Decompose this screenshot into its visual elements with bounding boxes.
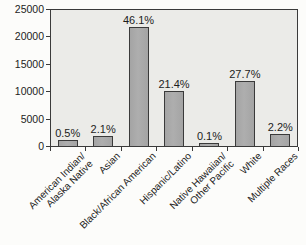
bar-value-label-white: 27.7% — [229, 68, 260, 80]
x-axis-tick — [192, 147, 193, 151]
bar-chart-figure: 05000100001500020000250000.5%American In… — [0, 0, 306, 245]
y-axis-tick — [46, 64, 50, 65]
y-axis-tick — [46, 9, 50, 10]
x-axis-tick — [50, 147, 51, 151]
bar-white — [235, 81, 255, 147]
bar-value-label-native-hawaiian-other-pacific: 0.1% — [197, 130, 222, 142]
y-axis-tick — [46, 91, 50, 92]
y-axis-label: 5000 — [0, 113, 44, 125]
bar-value-label-black-african-american: 46.1% — [123, 14, 154, 26]
x-axis-tick — [121, 147, 122, 151]
y-axis-tick — [46, 36, 50, 37]
x-axis-tick — [298, 147, 299, 151]
bar-black-african-american — [129, 27, 149, 147]
x-axis-category-text: White — [239, 151, 265, 177]
bar-american-indian-alaska-native — [58, 140, 78, 147]
y-axis-label: 25000 — [0, 3, 44, 15]
y-axis-label: 10000 — [0, 85, 44, 97]
x-axis-category-text: American Indian/ Alaska Native — [27, 151, 95, 219]
x-axis-tick — [227, 147, 228, 151]
y-axis-label: 20000 — [0, 30, 44, 42]
bar-value-label-asian: 2.1% — [91, 123, 116, 135]
bar-hispanic-latino — [164, 91, 184, 147]
bar-native-hawaiian-other-pacific — [199, 143, 219, 147]
x-axis-tick — [263, 147, 264, 151]
y-axis-label: 15000 — [0, 58, 44, 70]
y-axis-label: 0 — [0, 140, 44, 152]
bar-value-label-multiple-races: 2.2% — [268, 121, 293, 133]
y-axis-tick — [46, 119, 50, 120]
bar-value-label-hispanic-latino: 21.4% — [158, 78, 189, 90]
x-axis-tick — [85, 147, 86, 151]
x-axis-category-text: Asian — [97, 151, 122, 176]
bar-value-label-american-indian-alaska-native: 0.5% — [55, 127, 80, 139]
bar-multiple-races — [270, 134, 290, 147]
bar-asian — [93, 136, 113, 147]
x-axis-tick — [156, 147, 157, 151]
